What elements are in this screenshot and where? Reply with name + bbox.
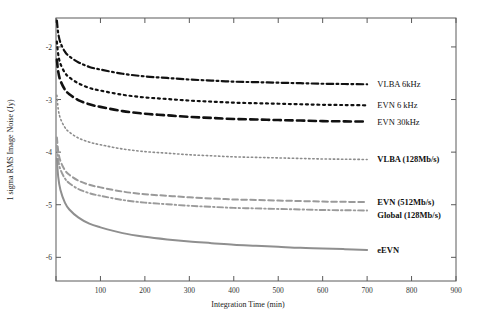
series-label-evn-6-khz: EVN 6 kHz [377,100,417,110]
series-label-evn-512mb-s: EVN (512Mb/s) [377,197,434,207]
y-tick-label: -6 [46,253,52,262]
y-tick-label: -3 [46,96,52,105]
series-label-eevn: eEVN [377,245,400,255]
rms-noise-vs-integration-time-chart: 100200300400500600700800900 -2-3-4-5-6 V… [0,0,481,318]
series-label-evn-30khz: EVN 30kHz [377,117,419,127]
figure-container: 100200300400500600700800900 -2-3-4-5-6 V… [0,0,481,318]
x-tick-label: 600 [317,286,329,295]
series-label-global-128mb-s: Global (128Mb/s) [377,210,441,220]
y-axis-title: 1 sigma RMS Image Noise (Jy) [6,99,15,200]
y-tick-label: -5 [46,201,52,210]
x-tick-label: 500 [273,286,285,295]
x-tick-label: 700 [361,286,373,295]
y-tick-label: -4 [46,148,52,157]
x-tick-label: 300 [184,286,196,295]
series-label-vlba-6khz: VLBA 6kHz [377,79,420,89]
x-axis-title: Integration Time (min) [211,300,285,309]
y-tick-label: -2 [46,43,52,52]
x-tick-label: 900 [450,286,462,295]
x-tick-label: 100 [95,286,107,295]
x-tick-label: 200 [139,286,151,295]
series-label-vlba-128mb-s: VLBA (128Mb/s) [377,154,439,164]
x-tick-label: 800 [406,286,418,295]
x-tick-label: 400 [228,286,240,295]
